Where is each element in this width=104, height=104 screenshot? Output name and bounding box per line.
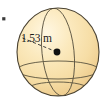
radius-label: 1.53 m [21,32,52,44]
corner-mark [2,17,5,20]
center-point [54,49,61,56]
sphere-figure-canvas: 1.53 m [0,0,104,104]
sphere-figure: 1.53 m [0,0,104,104]
